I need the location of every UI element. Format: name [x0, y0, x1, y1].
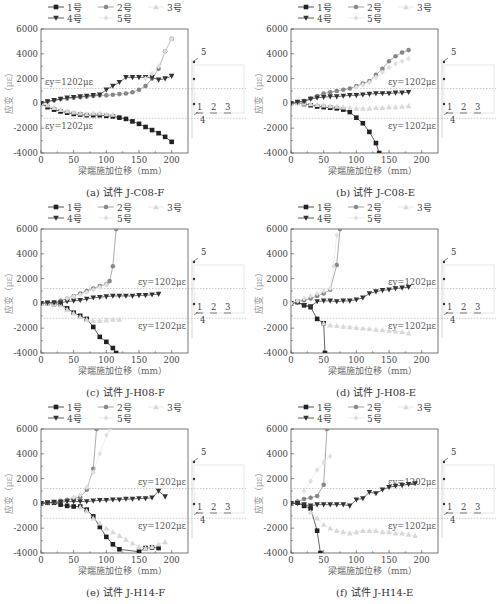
y-tick-label: -2000: [263, 323, 288, 333]
series-line-s5: [304, 456, 330, 491]
series-line-s1: [291, 302, 325, 353]
series-group: [288, 427, 418, 556]
data-point: [97, 520, 103, 525]
legend-item-s3: 3号: [148, 403, 182, 413]
data-point: [156, 542, 162, 547]
data-point: [143, 125, 148, 130]
data-point: [117, 92, 122, 97]
yield-label: εy=1202με: [138, 321, 186, 331]
inset-label: 5: [451, 47, 456, 57]
legend-marker-icon: [54, 405, 59, 410]
y-tick-label: 4000: [16, 449, 38, 459]
chart-svg: 1号2号3号4号5号-4000-200002000400060000501001…: [0, 0, 247, 201]
y-axis: -4000-20000200040006000: [263, 224, 294, 358]
panel-caption: (d) 试件 J-H08-E: [336, 384, 416, 399]
x-tick-label: 50: [68, 355, 79, 365]
data-point: [114, 227, 119, 232]
gauge-5-dot-icon: [443, 261, 445, 263]
legend-item-s3: 3号: [398, 3, 432, 13]
y-axis: -4000-20000200040006000: [13, 24, 44, 158]
inset-label: 4: [200, 515, 205, 525]
legend-marker-icon: [304, 5, 309, 10]
legend-label: 2号: [117, 3, 132, 13]
data-point: [104, 87, 110, 92]
chart-panel-a: 1号2号3号4号5号-4000-200002000400060000501001…: [0, 0, 247, 201]
data-point: [169, 74, 175, 79]
legend: 1号2号3号4号5号: [48, 203, 182, 224]
legend-item-s1: 1号: [48, 203, 82, 213]
data-point: [327, 525, 333, 530]
gauge-5-arrow-icon: [444, 58, 448, 61]
x-tick-label: 150: [131, 555, 147, 565]
x-tick-label: 150: [131, 355, 147, 365]
data-point: [162, 539, 168, 544]
x-tick-label: 50: [318, 355, 329, 365]
y-axis-label: 应变（με）: [3, 68, 14, 115]
data-point: [110, 84, 116, 89]
y-tick-label: 6000: [266, 424, 288, 434]
plot-frame: [291, 229, 438, 353]
data-point: [114, 351, 119, 356]
legend-label: 3号: [417, 403, 432, 413]
legend-item-s1: 1号: [298, 403, 332, 413]
y-tick-label: -2000: [13, 523, 38, 533]
data-point: [348, 110, 353, 115]
x-tick-label: 200: [414, 155, 430, 165]
data-point: [94, 427, 99, 432]
data-point: [387, 59, 392, 64]
legend-marker-icon: [354, 415, 359, 421]
legend-item-s3: 3号: [148, 3, 182, 13]
inset-label: 2: [211, 102, 216, 112]
data-point: [406, 48, 411, 53]
legend-label: 3号: [417, 203, 432, 213]
data-point: [406, 103, 412, 108]
inset-label: 5: [451, 247, 456, 257]
y-tick-label: 0: [283, 498, 288, 508]
data-point: [117, 115, 122, 120]
inset-label: 1: [197, 102, 202, 112]
gauge-dot-icon: [193, 78, 195, 80]
legend-marker-icon: [354, 15, 359, 21]
x-axis: 050100150200: [288, 550, 429, 565]
gauge-4-arrow-icon: [444, 312, 448, 315]
legend-label: 2号: [367, 403, 382, 413]
data-point: [137, 87, 142, 92]
gauge-4-arrow-icon: [194, 312, 198, 315]
panel-caption: (b) 试件 J-C08-E: [336, 184, 415, 199]
data-point: [111, 542, 116, 547]
x-tick-label: 100: [348, 355, 364, 365]
legend-label: 3号: [167, 3, 182, 13]
inset-label: 2: [461, 302, 466, 312]
y-tick-label: 6000: [266, 224, 288, 234]
inset-label: 2: [211, 502, 216, 512]
chart-svg: 1号2号3号4号5号-4000-200002000400060000501001…: [250, 0, 497, 201]
y-tick-label: -2000: [263, 523, 288, 533]
legend: 1号2号3号4号5号: [298, 203, 432, 224]
gauge-layout-inset: 51234: [192, 47, 244, 138]
y-tick-label: -4000: [13, 548, 38, 558]
gauge-dot-icon: [443, 303, 445, 305]
series-line-s1: [41, 303, 116, 353]
data-point: [143, 84, 148, 89]
legend-item-s3: 3号: [398, 403, 432, 413]
data-point: [169, 140, 174, 145]
data-point: [104, 93, 109, 98]
y-tick-label: 0: [33, 498, 38, 508]
data-point: [150, 128, 155, 133]
gauge-5-arrow-icon: [194, 258, 198, 261]
legend-marker-icon: [54, 205, 59, 210]
data-point: [130, 119, 135, 124]
data-point: [169, 36, 174, 42]
y-tick-label: -4000: [13, 348, 38, 358]
x-tick-label: 100: [348, 555, 364, 565]
legend-label: 5号: [367, 214, 382, 224]
data-point: [117, 80, 123, 85]
x-axis: 050100150200: [38, 550, 179, 565]
legend-item-s4: 4号: [48, 414, 82, 424]
y-tick-label: 6000: [16, 24, 38, 34]
y-tick-label: 2000: [16, 74, 38, 84]
x-tick-label: 100: [98, 555, 114, 565]
legend-label: 5号: [117, 14, 132, 24]
legend-label: 2号: [117, 203, 132, 213]
data-point: [124, 117, 129, 122]
